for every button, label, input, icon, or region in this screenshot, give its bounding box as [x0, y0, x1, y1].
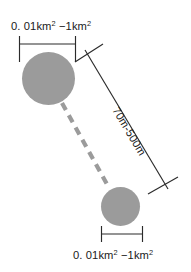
upper-patch-size-mid: −1km: [56, 20, 87, 32]
habitat-corridor-diagram: 0. 01km2 −1km2 0. 01km2 −1km2 70m-500m: [0, 0, 191, 272]
corridor-dashed-line: [62, 103, 108, 186]
diagram-canvas: 0. 01km2 −1km2 0. 01km2 −1km2 70m-500m: [0, 0, 191, 272]
lower-patch-size-lead: 0. 01km: [73, 249, 114, 261]
lower-patch-size-sup2: 2: [149, 248, 153, 257]
lower-dimension-line: [101, 226, 143, 242]
upper-patch-size-lead: 0. 01km: [11, 20, 52, 32]
lower-patch-size-label: 0. 01km2 −1km2: [73, 248, 153, 261]
upper-patch-size-label: 0. 01km2 −1km2: [11, 19, 91, 32]
lower-patch-size-mid: −1km: [118, 249, 149, 261]
upper-habitat-patch: [22, 52, 75, 105]
corridor-length-label: 70m-500m: [110, 105, 148, 158]
lower-habitat-patch: [101, 187, 140, 226]
diagonal-dimension-tick-top: [75, 44, 103, 62]
upper-patch-size-sup2: 2: [87, 19, 91, 28]
